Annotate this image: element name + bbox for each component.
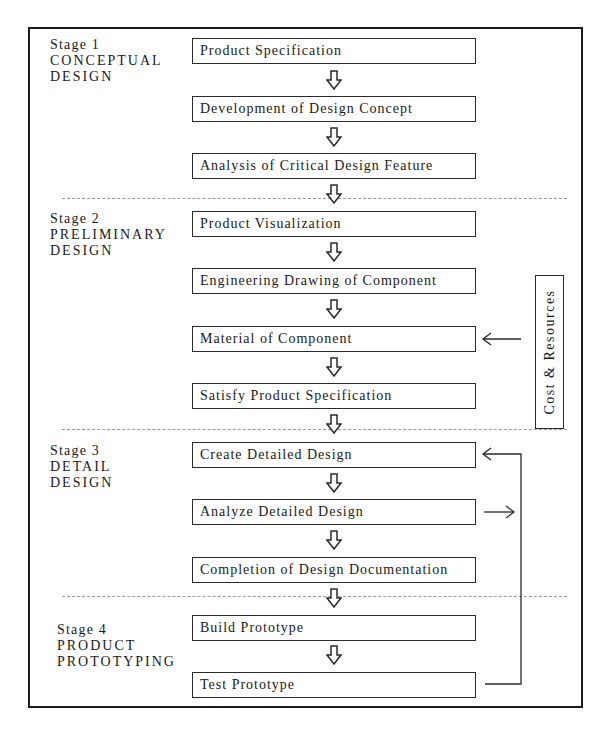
connector-lines — [0, 0, 612, 734]
analyze-branch-arrow — [484, 506, 514, 518]
cost-input-arrow — [483, 333, 521, 345]
feedback-loop-arrow — [483, 448, 521, 684]
